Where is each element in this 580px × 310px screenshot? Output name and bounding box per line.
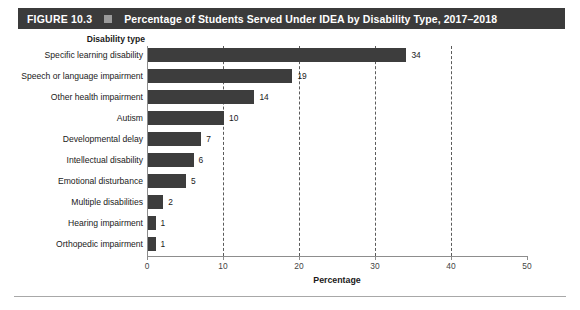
- x-tick-mark: [223, 256, 224, 260]
- x-axis-title: Percentage: [147, 275, 527, 285]
- bar[interactable]: [148, 237, 156, 251]
- bar-row[interactable]: Autism10: [0, 109, 580, 130]
- chart-plot-area: Disability type Specific learning disabi…: [0, 30, 580, 280]
- x-tick-label: 50: [522, 261, 531, 271]
- figure-title: Percentage of Students Served Under IDEA…: [124, 13, 497, 25]
- bar[interactable]: [148, 153, 194, 167]
- bar-category-label: Other health impairment: [0, 92, 143, 102]
- bar[interactable]: [148, 69, 292, 83]
- bar-value-label: 10: [229, 113, 238, 123]
- bar-row[interactable]: Other health impairment14: [0, 88, 580, 109]
- bar-value-label: 7: [206, 134, 211, 144]
- bar-category-label: Developmental delay: [0, 134, 143, 144]
- x-tick-label: 40: [446, 261, 455, 271]
- bar-value-label: 19: [297, 71, 306, 81]
- bar-category-label: Emotional disturbance: [0, 176, 143, 186]
- x-tick-mark: [527, 256, 528, 260]
- x-tick-mark: [147, 256, 148, 260]
- bar-value-label: 1: [161, 239, 166, 249]
- bar-row[interactable]: Specific learning disability34: [0, 46, 580, 67]
- x-tick-label: 0: [145, 261, 150, 271]
- bars-layer: Specific learning disability34Speech or …: [0, 46, 580, 256]
- bar-category-label: Speech or language impairment: [0, 71, 143, 81]
- figure-container: FIGURE 10.3 Percentage of Students Serve…: [0, 0, 580, 310]
- bar-row[interactable]: Hearing impairment1: [0, 214, 580, 235]
- bar-value-label: 14: [259, 92, 268, 102]
- x-tick-label: 20: [294, 261, 303, 271]
- x-axis-line: [147, 256, 527, 257]
- bar[interactable]: [148, 216, 156, 230]
- bar-value-label: 34: [411, 50, 420, 60]
- bar-category-label: Multiple disabilities: [0, 197, 143, 207]
- bar-category-label: Specific learning disability: [0, 50, 143, 60]
- bar[interactable]: [148, 174, 186, 188]
- bar-category-label: Intellectual disability: [0, 155, 143, 165]
- figure-title-bar: FIGURE 10.3 Percentage of Students Serve…: [18, 8, 565, 29]
- bar-category-label: Orthopedic impairment: [0, 239, 143, 249]
- bar-value-label: 5: [191, 176, 196, 186]
- bar-row[interactable]: Developmental delay7: [0, 130, 580, 151]
- x-tick-mark: [299, 256, 300, 260]
- x-tick-mark: [375, 256, 376, 260]
- bar-category-label: Autism: [0, 113, 143, 123]
- bottom-divider: [14, 296, 566, 297]
- bar[interactable]: [148, 90, 254, 104]
- figure-number-label: FIGURE 10.3: [27, 13, 92, 25]
- bar-category-label: Hearing impairment: [0, 218, 143, 228]
- bar[interactable]: [148, 111, 224, 125]
- bar-row[interactable]: Multiple disabilities2: [0, 193, 580, 214]
- bar[interactable]: [148, 48, 406, 62]
- x-tick-mark: [451, 256, 452, 260]
- square-bullet-icon: [104, 15, 112, 23]
- x-tick-label: 10: [218, 261, 227, 271]
- bar-value-label: 1: [161, 218, 166, 228]
- bar-row[interactable]: Intellectual disability6: [0, 151, 580, 172]
- bar-value-label: 6: [199, 155, 204, 165]
- bar-row[interactable]: Speech or language impairment19: [0, 67, 580, 88]
- bar-value-label: 2: [168, 197, 173, 207]
- bar-row[interactable]: Emotional disturbance5: [0, 172, 580, 193]
- bar[interactable]: [148, 195, 163, 209]
- bar-row[interactable]: Orthopedic impairment1: [0, 235, 580, 256]
- bar[interactable]: [148, 132, 201, 146]
- x-tick-label: 30: [370, 261, 379, 271]
